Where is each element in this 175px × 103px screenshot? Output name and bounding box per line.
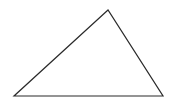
diagram-canvas	[0, 0, 175, 103]
triangle-diagram	[0, 0, 175, 103]
triangle-shape	[14, 10, 163, 96]
